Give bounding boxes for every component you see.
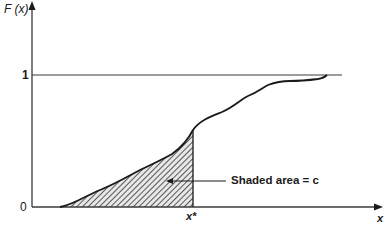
x-marker-label: x*: [186, 210, 196, 222]
y-axis-label-text: F (x): [4, 2, 28, 16]
x-axis-arrow-icon: [374, 204, 383, 211]
y-tick-one: 1: [22, 68, 29, 82]
annotation-label: Shaded area = c: [231, 174, 319, 186]
cdf-diagram: [0, 0, 388, 226]
x-axis-label: x: [377, 212, 383, 224]
y-tick-zero: 0: [20, 200, 27, 214]
shaded-area: [60, 130, 193, 207]
y-axis-arrow-icon: [29, 1, 36, 10]
y-axis-label: F (x): [4, 2, 28, 16]
